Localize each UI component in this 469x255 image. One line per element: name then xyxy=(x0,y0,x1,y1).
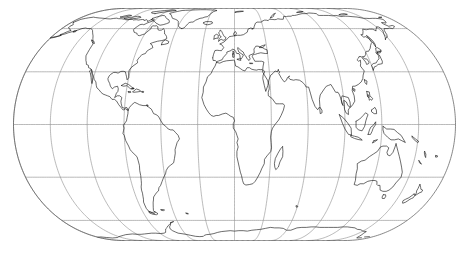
coastline-south-georgia xyxy=(186,213,188,214)
map-canvas xyxy=(0,0,469,255)
coastline-wrangel xyxy=(379,17,382,18)
world-map-figure xyxy=(0,0,469,255)
